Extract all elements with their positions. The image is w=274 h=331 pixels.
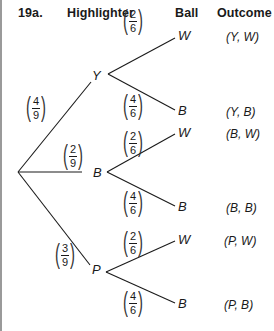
probability-y-w: (26) (124, 6, 142, 36)
leaf-ball-y-w: W (178, 29, 190, 43)
probability-b: (29) (64, 141, 82, 171)
probability-p-b: (46) (124, 288, 142, 318)
outcome-y-w: (Y, W) (226, 30, 259, 44)
branch-root-to-p (18, 172, 90, 265)
node-highlighter-b: B (93, 166, 102, 180)
leaf-ball-y-b: B (178, 104, 187, 118)
probability-p: (39) (56, 240, 74, 270)
outcome-p-w: (P, W) (224, 234, 256, 248)
probability-y-b: (46) (124, 91, 142, 121)
outcome-b-b: (B, B) (226, 201, 257, 215)
outcome-p-b: (P, B) (224, 298, 253, 312)
outcome-b-w: (B, W) (226, 127, 260, 141)
node-highlighter-y: Y (92, 69, 101, 83)
probability-b-w: (26) (124, 128, 142, 158)
tree-diagram (0, 0, 274, 331)
outcome-y-b: (Y, B) (226, 105, 256, 119)
probability-b-b: (46) (124, 188, 142, 218)
branch-y-to-w (108, 38, 175, 74)
node-highlighter-p: P (92, 263, 101, 277)
leaf-ball-b-b: B (178, 200, 187, 214)
leaf-ball-p-w: W (178, 233, 190, 247)
leaf-ball-b-w: W (178, 126, 190, 140)
leaf-ball-p-b: B (178, 297, 187, 311)
probability-y: (49) (27, 93, 45, 123)
probability-p-w: (26) (124, 228, 142, 258)
